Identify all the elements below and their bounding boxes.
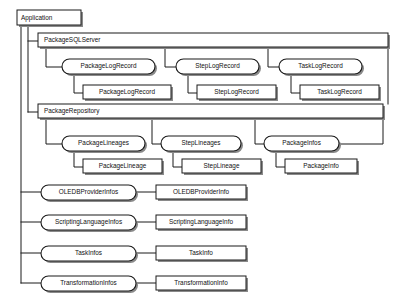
edge-pr-to-packagelineages [46, 120, 62, 144]
node-item-scriptinglanguageinfo-label: ScriptingLanguageInfo [169, 218, 233, 226]
node-collection-taskinfos-label: TaskInfos [75, 249, 102, 256]
node-item-transformationinfo-label: TransformationInfo [174, 279, 228, 286]
edge-pss-to-tasklogrecord [268, 49, 279, 67]
node-item-steplogrecord-label: StepLogRecord [214, 88, 259, 96]
node-item-packagelogrecord[interactable]: PackageLogRecord [83, 85, 173, 101]
edge-packagelogrecords-to-item [74, 76, 83, 93]
edge-steplineages-to-item [173, 153, 182, 167]
node-item-packagelineage[interactable]: PackageLineage [83, 159, 164, 175]
node-item-steplineage-label: StepLineage [204, 162, 240, 170]
node-collection-packagelineages[interactable]: PackageLineages [62, 136, 147, 153]
node-item-packagelineage-label: PackageLineage [99, 162, 147, 170]
node-item-packageinfo[interactable]: PackageInfo [285, 159, 359, 175]
node-application-label: Application [21, 14, 53, 22]
node-item-packagelogrecord-label: PackageLogRecord [99, 88, 156, 96]
edge-steplogrecords-to-item [188, 76, 197, 93]
group-header-packagerepository-label: PackageRepository [44, 107, 100, 115]
diagram-canvas: Application PackageSQLServer PackageRepo… [0, 0, 404, 300]
group-wall-packagerepository [339, 120, 383, 144]
node-collection-packageinfos[interactable]: PackageInfos [264, 136, 341, 153]
node-item-oledbproviderinfo-label: OLEDBProviderInfo [173, 188, 230, 195]
node-collection-scriptinglanguageinfos[interactable]: ScriptingLanguageInfos [41, 215, 138, 232]
edge-packagelineages-to-item [74, 153, 83, 167]
node-collection-steplineages[interactable]: StepLineages [161, 136, 243, 153]
node-collection-packagelogrecord-label: PackageLogRecord [80, 62, 137, 70]
node-collection-transformationinfos-label: TransformationInfos [60, 279, 117, 286]
node-item-taskinfo[interactable]: TaskInfo [156, 246, 248, 262]
edge-pss-to-steplogrecord [165, 49, 176, 67]
node-collection-scriptinglanguageinfos-label: ScriptingLanguageInfos [55, 218, 122, 226]
edge-pss-to-packagelogrecord [46, 49, 62, 67]
node-collection-steplineages-label: StepLineages [181, 139, 220, 147]
group-header-packagesqlserver-label: PackageSQLServer [44, 36, 101, 44]
node-item-transformationinfo[interactable]: TransformationInfo [156, 276, 248, 292]
node-item-tasklogrecord-label: TaskLogRecord [317, 88, 362, 96]
node-collection-tasklogrecord-label: TaskLogRecord [298, 62, 343, 70]
group-header-packagerepository[interactable]: PackageRepository [38, 104, 385, 120]
node-collection-packagelineages-label: PackageLineages [78, 139, 129, 147]
node-item-tasklogrecord[interactable]: TaskLogRecord [300, 85, 381, 101]
node-application[interactable]: Application [17, 10, 83, 27]
node-collection-packagelogrecord[interactable]: PackageLogRecord [62, 59, 157, 76]
edge-pr-to-steplineages [152, 120, 161, 144]
node-item-taskinfo-label: TaskInfo [189, 249, 213, 256]
edge-tasklogrecords-to-item [291, 76, 300, 93]
node-item-steplogrecord[interactable]: StepLogRecord [197, 85, 278, 101]
node-item-oledbproviderinfo[interactable]: OLEDBProviderInfo [156, 185, 248, 201]
node-item-scriptinglanguageinfo[interactable]: ScriptingLanguageInfo [156, 215, 248, 231]
node-collection-oledbproviderinfos-label: OLEDBProviderInfos [59, 188, 118, 195]
edge-packageinfos-to-item [276, 153, 285, 167]
node-collection-steplogrecord[interactable]: StepLogRecord [176, 59, 261, 76]
node-collection-tasklogrecord[interactable]: TaskLogRecord [279, 59, 364, 76]
node-collection-packageinfos-label: PackageInfos [282, 139, 321, 147]
node-item-steplineage[interactable]: StepLineage [182, 159, 263, 175]
node-collection-steplogrecord-label: StepLogRecord [195, 62, 240, 70]
object-model-diagram: Application PackageSQLServer PackageRepo… [0, 0, 404, 300]
edge-pr-to-packageinfos [255, 120, 264, 144]
node-collection-taskinfos[interactable]: TaskInfos [41, 246, 138, 263]
group-header-packagesqlserver[interactable]: PackageSQLServer [38, 33, 390, 49]
node-collection-oledbproviderinfos[interactable]: OLEDBProviderInfos [41, 185, 138, 202]
node-item-packageinfo-label: PackageInfo [303, 162, 339, 170]
node-collection-transformationinfos[interactable]: TransformationInfos [41, 276, 138, 293]
